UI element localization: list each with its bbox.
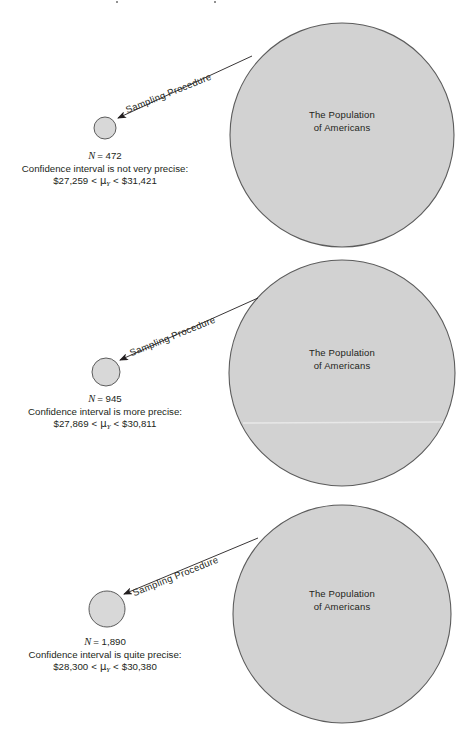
- sample-circle: [92, 358, 120, 386]
- figure-root: The Population of Americans Sampling Pro…: [0, 0, 471, 752]
- ci-op-right: <: [110, 661, 122, 672]
- panel-sample-472: The Population of Americans Sampling Pro…: [0, 0, 471, 250]
- ci-op-left: <: [89, 418, 101, 429]
- sample-size-value: = 1,890: [91, 636, 126, 647]
- ci-upper-bound: $30,380: [122, 661, 157, 672]
- scan-line-artifact: [243, 422, 443, 423]
- sample-caption: N= 472 Confidence interval is not very p…: [0, 150, 270, 191]
- panel-1-graphics: [0, 0, 471, 250]
- ci-lower-bound: $27,869: [54, 418, 89, 429]
- population-circle: [230, 23, 454, 247]
- confidence-interval-line: $27,869<μY<$30,811: [0, 418, 270, 434]
- population-circle: [229, 260, 455, 486]
- confidence-interval-line: $28,300<μY<$30,380: [0, 661, 270, 677]
- sample-size-line: N= 945: [0, 393, 270, 406]
- precision-text: Confidence interval is not very precise:: [0, 163, 270, 176]
- sample-size-value: = 472: [95, 150, 122, 161]
- sample-caption: N= 1,890 Confidence interval is quite pr…: [0, 636, 270, 677]
- ci-op-left: <: [88, 175, 100, 186]
- panel-3-graphics: [0, 500, 471, 752]
- precision-text: Confidence interval is quite precise:: [0, 649, 270, 662]
- sample-circle: [94, 117, 116, 139]
- ci-op-right: <: [110, 175, 122, 186]
- ci-lower-bound: $28,300: [53, 661, 88, 672]
- sample-circle: [89, 591, 125, 627]
- ci-op-left: <: [88, 661, 100, 672]
- panel-sample-945: The Population of Americans Sampling Pro…: [0, 250, 471, 500]
- ci-lower-bound: $27,259: [53, 175, 88, 186]
- sample-caption: N= 945 Confidence interval is more preci…: [0, 393, 270, 434]
- sample-size-value: = 945: [95, 393, 122, 404]
- ci-op-right: <: [110, 418, 122, 429]
- sample-size-line: N= 472: [0, 150, 270, 163]
- ci-upper-bound: $31,421: [122, 175, 157, 186]
- confidence-interval-line: $27,259<μY<$31,421: [0, 175, 270, 191]
- panel-sample-1890: The Population of Americans Sampling Pro…: [0, 500, 471, 752]
- panel-2-graphics: [0, 250, 471, 500]
- population-circle: [233, 505, 451, 723]
- sample-size-line: N= 1,890: [0, 636, 270, 649]
- precision-text: Confidence interval is more precise:: [0, 406, 270, 419]
- ci-upper-bound: $30,811: [122, 418, 156, 429]
